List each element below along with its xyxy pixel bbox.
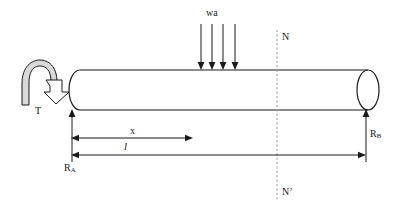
label-reaction-rb-subscript: B — [377, 132, 382, 139]
dimension-x-arrow-right — [185, 135, 193, 141]
label-reaction-rb: RB — [370, 129, 381, 140]
beam-right-end-ellipse — [357, 70, 379, 110]
label-reaction-ra-base: R — [64, 162, 71, 173]
label-section-n: N — [282, 32, 289, 42]
label-torque: T — [35, 106, 41, 116]
beam-body — [69, 70, 379, 110]
load-arrow-4 — [232, 24, 239, 70]
dimension-l-arrow-right — [358, 152, 366, 158]
torque-arrowhead — [44, 80, 69, 104]
label-dimension-x: x — [130, 126, 135, 136]
dimension-l — [71, 152, 366, 158]
label-section-n-prime: N’ — [282, 187, 293, 197]
load-arrow-3 — [220, 24, 227, 70]
beam-diagram-svg — [0, 0, 394, 222]
label-dimension-length: l — [124, 141, 127, 152]
torque-arrow — [22, 60, 69, 105]
label-distributed-load: wa — [206, 8, 218, 18]
load-arrow-1 — [198, 24, 205, 70]
distributed-load-arrows — [198, 24, 239, 70]
label-reaction-ra-subscript: A — [71, 166, 76, 173]
label-reaction-ra: RA — [64, 163, 76, 174]
beam-left-cap — [69, 70, 80, 110]
load-arrow-2 — [209, 24, 216, 70]
label-reaction-rb-base: R — [370, 128, 377, 139]
diagram-canvas: wa N N’ T RA RB x l — [0, 0, 394, 222]
